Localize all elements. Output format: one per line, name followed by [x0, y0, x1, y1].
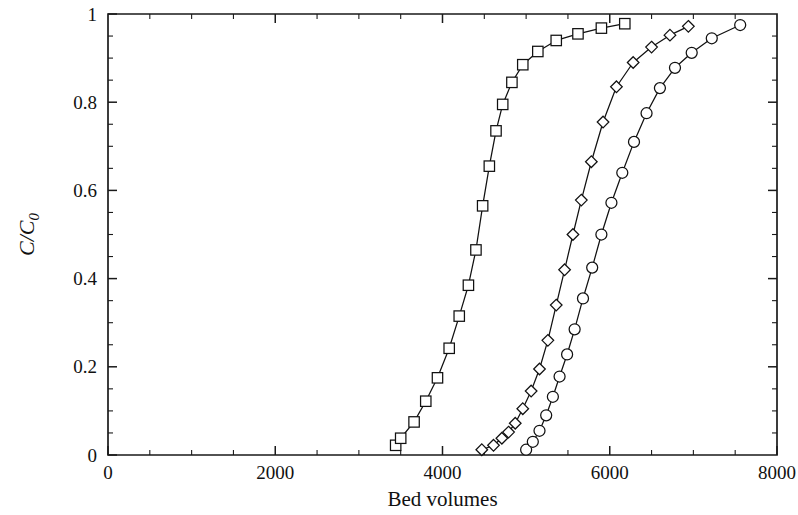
x-tick-label: 4000	[424, 462, 462, 483]
data-point-square	[477, 201, 487, 211]
data-point-square	[421, 396, 431, 406]
data-point-circle	[686, 47, 697, 58]
data-point-square	[573, 29, 583, 39]
series-square-series	[390, 19, 630, 451]
y-tick-label: 0	[88, 445, 98, 466]
data-point-square	[518, 60, 528, 70]
data-point-diamond	[597, 116, 609, 128]
data-point-diamond	[525, 385, 537, 397]
data-point-circle	[629, 136, 640, 147]
data-point-square	[395, 433, 405, 443]
data-point-diamond	[550, 299, 562, 311]
data-point-circle	[541, 410, 552, 421]
axes	[108, 14, 777, 455]
data-point-circle	[562, 349, 573, 360]
y-axis-title: C/C0	[14, 213, 42, 256]
data-point-circle	[669, 62, 680, 73]
y-tick-label: 1	[88, 4, 98, 25]
data-point-circle	[534, 425, 545, 436]
x-tick-label: 2000	[256, 462, 294, 483]
data-point-diamond	[664, 29, 676, 41]
data-point-circle	[596, 229, 607, 240]
data-series	[390, 19, 745, 456]
data-point-square	[454, 311, 464, 321]
tick-labels: 0200040006000800000.20.40.60.81	[73, 4, 796, 484]
data-point-square	[596, 23, 606, 33]
data-point-circle	[606, 197, 617, 208]
data-point-circle	[554, 371, 565, 382]
series-line	[526, 25, 740, 450]
data-point-square	[444, 343, 454, 353]
data-point-circle	[527, 436, 538, 447]
x-axis-title: Bed volumes	[387, 487, 497, 511]
data-point-circle	[654, 83, 665, 94]
y-tick-label: 0.2	[73, 356, 97, 377]
data-point-diamond	[476, 444, 488, 456]
data-point-diamond	[586, 156, 598, 168]
data-point-square	[484, 161, 494, 171]
y-tick-label: 0.6	[73, 180, 97, 201]
x-tick-label: 6000	[591, 462, 629, 483]
data-point-diamond	[576, 194, 588, 206]
data-point-circle	[641, 108, 652, 119]
data-point-square	[533, 46, 543, 56]
y-tick-label: 0.4	[73, 268, 97, 289]
x-tick-label: 0	[103, 462, 113, 483]
data-point-square	[507, 77, 517, 87]
data-point-circle	[587, 262, 598, 273]
series-circle-series	[521, 20, 746, 456]
y-axis-title-main: C/C	[14, 220, 39, 256]
data-point-square	[491, 126, 501, 136]
data-point-diamond	[542, 335, 554, 347]
data-point-diamond	[559, 264, 571, 276]
data-point-square	[409, 417, 419, 427]
plot-frame	[108, 14, 777, 455]
data-point-circle	[706, 33, 717, 44]
data-point-square	[498, 99, 508, 109]
data-point-square	[620, 19, 630, 29]
data-point-diamond	[567, 229, 579, 241]
data-point-circle	[569, 324, 580, 335]
chart-canvas: 0200040006000800000.20.40.60.81 Bed volu…	[0, 0, 798, 515]
data-point-square	[551, 35, 561, 45]
tick-marks	[108, 14, 777, 455]
data-point-diamond	[517, 403, 529, 415]
chart-figure: 0200040006000800000.20.40.60.81 Bed volu…	[0, 0, 798, 515]
data-point-square	[463, 280, 473, 290]
data-point-diamond	[611, 81, 623, 93]
data-point-square	[471, 245, 481, 255]
data-point-circle	[617, 167, 628, 178]
y-tick-label: 0.8	[73, 92, 97, 113]
data-point-diamond	[534, 363, 546, 375]
data-point-diamond	[509, 417, 521, 429]
data-point-square	[432, 373, 442, 383]
x-tick-label: 8000	[758, 462, 796, 483]
data-point-diamond	[683, 21, 695, 33]
y-axis-title-subscript: 0	[26, 213, 42, 221]
data-point-circle	[547, 391, 558, 402]
data-point-circle	[735, 20, 746, 31]
data-point-circle	[577, 293, 588, 304]
